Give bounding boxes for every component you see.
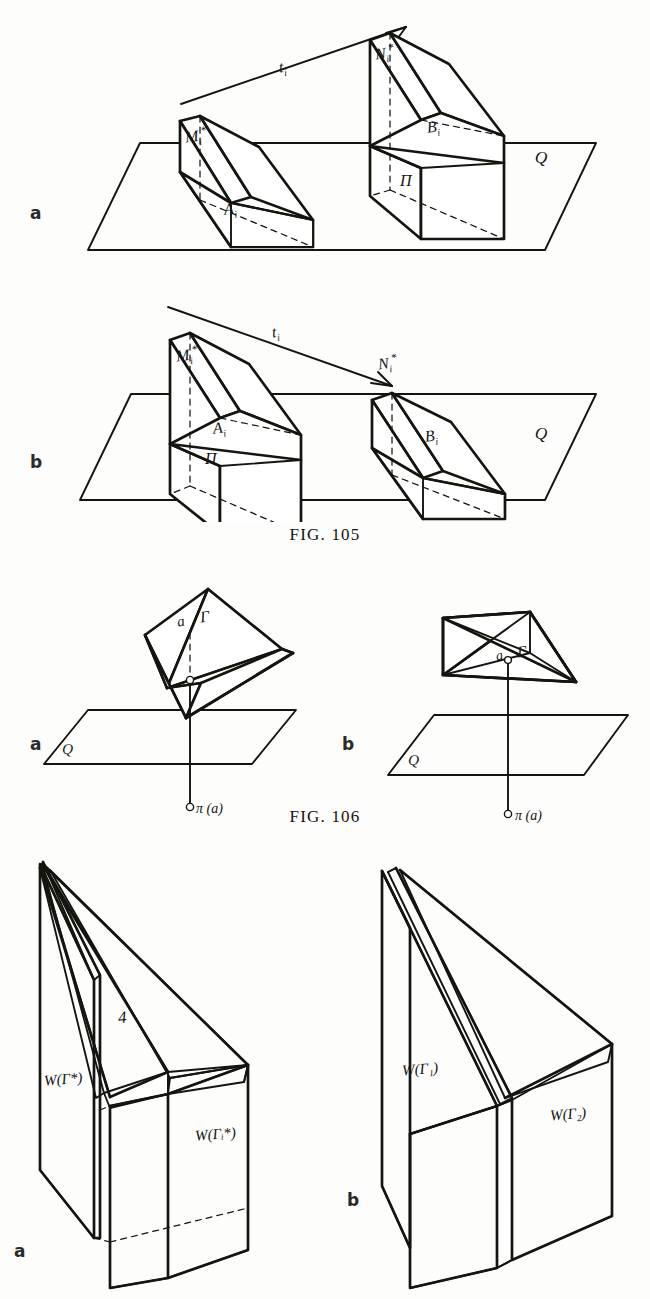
fig106-caption: FIG. 106	[0, 807, 650, 827]
fig106-panel-a-letter: a	[30, 734, 41, 754]
fig107-panel-a-letter: a	[14, 1241, 25, 1261]
fig106-b-label-Q: Q	[407, 752, 419, 770]
fig107-a-label-delta: 4	[117, 1008, 127, 1029]
fig105-b-label-Q: Q	[534, 424, 548, 445]
fig105-panel-b-letter: b	[30, 452, 42, 472]
fig106-panel-a-drawing	[44, 589, 296, 830]
figure-105: a Mi* Ai Ni* Bi Π Q ti	[0, 0, 650, 545]
fig105-a-label-Pi: Π	[400, 172, 412, 190]
fig106-drawing	[0, 560, 650, 830]
fig107-panel-b-letter: b	[347, 1190, 359, 1210]
figure-107: a b 4 W(Γ*) W(Γᵢ*) W(Γ₁) W(Γ₂)	[0, 848, 650, 1299]
fig105-a-label-B: Bi	[426, 117, 441, 139]
fig105-a-label-M: Mi*	[184, 124, 208, 149]
page-root: a Mi* Ai Ni* Bi Π Q ti	[0, 0, 650, 1299]
fig105-a-label-Q: Q	[534, 148, 548, 169]
fig105-caption: FIG. 105	[0, 525, 650, 545]
fig105-panel-a-letter: a	[30, 203, 41, 223]
fig105-b-label-Pi: Π	[205, 450, 217, 468]
fig107-b-label-W-Gamma-2: W(Γ₂)	[549, 1104, 587, 1124]
figure-106: a b a Γ π (a) Q a Γ π (a) Q FIG. 106	[0, 560, 650, 840]
fig105-panel-a-drawing	[0, 0, 650, 275]
point-a-marker-a	[186, 676, 193, 683]
fig105-b-label-M: Mi*	[175, 343, 199, 368]
fig105-b-label-B: Bi	[424, 426, 439, 448]
fig107-a-label-W-Gamma-i-star: W(Γᵢ*)	[194, 1124, 236, 1145]
fig105-panel-b-drawing	[0, 272, 650, 522]
fig105-a-label-N: Ni*	[374, 41, 396, 66]
fig107-a-label-W-Gamma-star: W(Γ*)	[43, 1069, 83, 1089]
fig105-b-label-N: Ni*	[377, 351, 399, 376]
fig105-b-label-A: Ai	[212, 418, 227, 440]
point-a-marker-b	[505, 657, 512, 664]
fig107-drawing	[0, 848, 650, 1299]
fig107-b-label-W-Gamma-1: W(Γ₁)	[401, 1059, 439, 1079]
fig105-a-label-A: Ai	[223, 199, 238, 221]
fig106-a-label-Q: Q	[61, 741, 73, 759]
fig106-panel-b-drawing	[388, 612, 628, 818]
fig106-panel-b-letter: b	[342, 734, 354, 754]
